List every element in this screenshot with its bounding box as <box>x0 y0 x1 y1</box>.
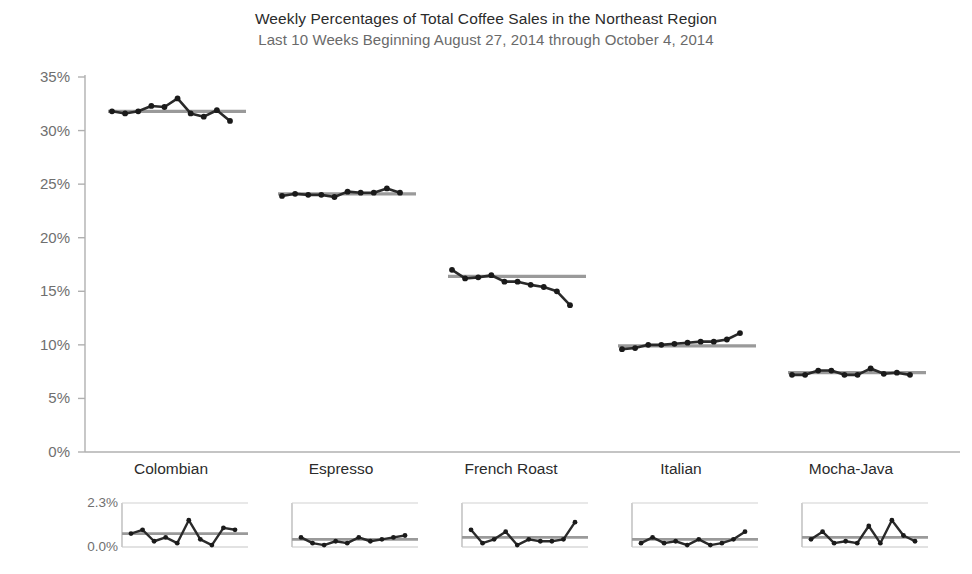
subpanel-data-point <box>391 535 396 540</box>
data-point <box>122 111 128 117</box>
y-axis-tick-label-5%: 5% <box>14 390 70 405</box>
data-point <box>135 108 141 114</box>
data-point <box>279 193 285 199</box>
data-point <box>672 341 678 347</box>
subpanel-y-tick-label-2.3%: 2.3% <box>60 496 118 510</box>
coffee-sales-chart: Weekly Percentages of Total Coffee Sales… <box>0 0 972 574</box>
data-point <box>384 186 390 192</box>
subpanel-data-line <box>811 520 915 543</box>
subpanel-data-point <box>526 537 531 542</box>
data-point <box>737 330 743 336</box>
subpanel-data-line <box>131 520 235 545</box>
subpanel-data-point <box>209 543 214 548</box>
subpanel-data-point <box>913 539 918 544</box>
subpanel-data-point <box>901 533 906 538</box>
subpanel-data-point <box>198 537 203 542</box>
subpanel-data-point <box>492 537 497 542</box>
subpanel-data-point <box>662 541 667 546</box>
data-line <box>112 98 230 121</box>
data-point <box>724 337 730 343</box>
data-point <box>698 339 704 345</box>
subpanel-data-point <box>368 539 373 544</box>
subpanel-italian <box>632 503 758 547</box>
data-point <box>475 274 481 280</box>
subpanel-espresso <box>292 503 418 547</box>
y-axis-tick-label-10%: 10% <box>14 337 70 352</box>
data-point <box>292 191 298 197</box>
data-point <box>397 190 403 196</box>
subpanel-data-point <box>480 541 485 546</box>
subpanel-data-point <box>843 539 848 544</box>
subpanel-data-point <box>889 518 894 523</box>
subpanel-data-point <box>866 524 871 529</box>
data-point <box>318 192 324 198</box>
subpanel-data-point <box>515 543 520 548</box>
series-group-espresso <box>278 186 416 200</box>
x-axis-category-label-colombian: Colombian <box>81 460 261 478</box>
data-point <box>842 372 848 378</box>
subpanel-data-point <box>685 543 690 548</box>
data-point <box>358 190 364 196</box>
subpanel-data-point <box>299 535 304 540</box>
subpanel-data-point <box>503 529 508 534</box>
subpanel-data-point <box>820 529 825 534</box>
series-group-french-roast <box>448 267 586 308</box>
subpanel-y-tick-label-0.0%: 0.0% <box>60 540 118 554</box>
data-point <box>619 346 625 352</box>
data-point <box>201 114 207 120</box>
data-point <box>449 267 455 273</box>
data-point <box>554 288 560 294</box>
subpanel-data-point <box>673 539 678 544</box>
data-point <box>802 372 808 378</box>
subpanel-data-point <box>855 541 860 546</box>
subpanel-data-point <box>731 537 736 542</box>
data-point <box>685 340 691 346</box>
data-point <box>541 284 547 290</box>
subpanel-data-point <box>878 541 883 546</box>
data-point <box>528 282 534 288</box>
data-point <box>881 371 887 377</box>
data-point <box>711 339 717 345</box>
x-axis-category-label-espresso: Espresso <box>251 460 431 478</box>
subpanel-data-point <box>345 541 350 546</box>
subpanel-mocha-java <box>802 503 928 547</box>
data-point <box>658 342 664 348</box>
y-axis-tick-label-30%: 30% <box>14 123 70 138</box>
data-point <box>332 194 338 200</box>
data-point <box>789 372 795 378</box>
subpanel-data-point <box>186 518 191 523</box>
subpanel-data-point <box>140 527 145 532</box>
subpanel-data-point <box>403 533 408 538</box>
subpanel-data-point <box>152 539 157 544</box>
data-point <box>345 189 351 195</box>
y-axis-tick-label-35%: 35% <box>14 69 70 84</box>
x-axis-category-label-french-roast: French Roast <box>421 460 601 478</box>
data-point <box>371 190 377 196</box>
subpanel-data-point <box>809 537 814 542</box>
subpanel-colombian <box>122 503 248 547</box>
subpanel-data-point <box>743 529 748 534</box>
data-point <box>567 302 573 308</box>
data-point <box>868 366 874 372</box>
data-point <box>515 279 521 285</box>
subpanel-data-line <box>471 522 575 545</box>
data-point <box>907 372 913 378</box>
data-point <box>148 103 154 109</box>
subpanel-data-point <box>233 527 238 532</box>
subpanel-data-point <box>832 541 837 546</box>
data-point <box>828 368 834 374</box>
data-point <box>462 276 468 282</box>
y-axis-tick-label-0%: 0% <box>14 444 70 459</box>
plot-canvas <box>0 0 972 574</box>
data-point <box>175 96 181 102</box>
subpanel-data-point <box>573 520 578 525</box>
data-point <box>815 368 821 374</box>
data-point <box>305 192 311 198</box>
data-point <box>502 279 508 285</box>
y-axis-tick-label-25%: 25% <box>14 176 70 191</box>
subpanel-data-point <box>469 527 474 532</box>
data-point <box>188 111 194 117</box>
y-axis-tick-label-20%: 20% <box>14 230 70 245</box>
subpanel-data-point <box>310 541 315 546</box>
data-point <box>855 372 861 378</box>
